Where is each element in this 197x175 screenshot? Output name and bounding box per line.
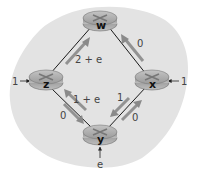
router-label-z: z	[43, 78, 49, 91]
external-input-label-y: e	[97, 159, 103, 170]
cost-label-z-y: 0	[60, 110, 66, 121]
router-label-y: y	[97, 133, 104, 146]
cost-label-x-y: 1	[117, 92, 123, 103]
router-y: y	[83, 125, 117, 146]
external-input-label-x: 1	[181, 76, 187, 87]
router-x: x	[135, 70, 169, 91]
router-label-w: w	[96, 19, 106, 32]
router-z: z	[29, 70, 63, 91]
router-label-x: x	[149, 78, 156, 91]
router-w: w	[83, 11, 117, 32]
external-input-label-z: 1	[12, 76, 18, 87]
cost-label-x-w: 0	[137, 38, 143, 49]
routing-diagram: 2 + e 0 1 + e 0 1 0 1 1 e w z	[0, 0, 197, 175]
cost-label-z-w: 2 + e	[75, 54, 102, 65]
cost-label-y-x: 0	[132, 112, 138, 123]
cost-label-y-z: 1 + e	[73, 94, 100, 105]
